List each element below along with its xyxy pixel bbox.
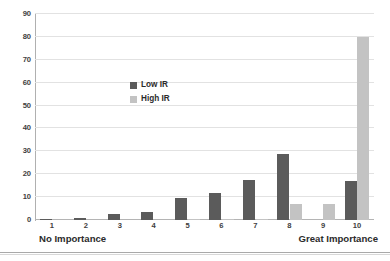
legend-swatch-low-ir bbox=[130, 82, 137, 89]
y-tick-label-0: 0 bbox=[5, 216, 31, 224]
legend-swatch-high-ir bbox=[130, 96, 137, 103]
bar-group-4 bbox=[141, 14, 166, 220]
bar-group-8 bbox=[277, 14, 302, 220]
plot-area bbox=[35, 14, 374, 220]
bar-high-ir-6 bbox=[222, 219, 234, 220]
x-tick-label-9: 9 bbox=[311, 222, 335, 230]
footer-divider-secondary bbox=[0, 254, 390, 255]
legend-item-high-ir: High IR bbox=[130, 93, 200, 105]
bar-group-5 bbox=[175, 14, 200, 220]
bar-high-ir-10 bbox=[357, 37, 369, 220]
bar-high-ir-5 bbox=[188, 219, 200, 220]
legend-item-low-ir: Low IR bbox=[130, 79, 200, 91]
legend-label-low-ir: Low IR bbox=[141, 81, 168, 89]
bar-low-ir-8 bbox=[277, 154, 289, 220]
x-tick-label-10: 10 bbox=[345, 222, 369, 230]
annotation-great-importance: Great Importance bbox=[299, 234, 378, 244]
bar-group-1 bbox=[40, 14, 65, 220]
bar-group-7 bbox=[243, 14, 268, 220]
y-tick-label-50: 50 bbox=[5, 102, 31, 110]
chart-figure: 0102030405060708090 12345678910 No Impor… bbox=[0, 0, 390, 261]
chart-legend: Low IR High IR bbox=[130, 79, 200, 107]
x-tick-label-2: 2 bbox=[74, 222, 98, 230]
bar-low-ir-4 bbox=[141, 212, 153, 220]
bar-low-ir-6 bbox=[209, 193, 221, 220]
bar-low-ir-1 bbox=[40, 219, 52, 220]
bar-low-ir-2 bbox=[74, 218, 86, 220]
bar-high-ir-9 bbox=[323, 204, 335, 220]
bar-low-ir-7 bbox=[243, 180, 255, 220]
x-tick-label-7: 7 bbox=[243, 222, 267, 230]
x-tick-label-8: 8 bbox=[277, 222, 301, 230]
bar-low-ir-10 bbox=[345, 181, 357, 220]
bar-group-6 bbox=[209, 14, 234, 220]
axis-annotations: No Importance Great Importance bbox=[35, 234, 380, 250]
y-axis-labels: 0102030405060708090 bbox=[0, 0, 31, 261]
y-tick-label-60: 60 bbox=[5, 79, 31, 87]
footer-divider bbox=[0, 252, 390, 253]
bar-high-ir-7 bbox=[256, 219, 268, 220]
y-tick-label-80: 80 bbox=[5, 33, 31, 41]
y-tick-label-70: 70 bbox=[5, 56, 31, 64]
x-tick-label-4: 4 bbox=[142, 222, 166, 230]
bar-group-3 bbox=[108, 14, 133, 220]
y-tick-label-90: 90 bbox=[5, 10, 31, 18]
bar-group-2 bbox=[74, 14, 99, 220]
y-tick-label-10: 10 bbox=[5, 193, 31, 201]
bar-low-ir-3 bbox=[108, 214, 120, 220]
y-tick-label-20: 20 bbox=[5, 170, 31, 178]
legend-label-high-ir: High IR bbox=[141, 95, 170, 103]
bar-series-container bbox=[35, 14, 374, 220]
x-tick-label-3: 3 bbox=[108, 222, 132, 230]
bar-group-9 bbox=[311, 14, 336, 220]
x-tick-label-5: 5 bbox=[176, 222, 200, 230]
x-tick-label-6: 6 bbox=[209, 222, 233, 230]
bar-group-10 bbox=[345, 14, 370, 220]
y-tick-label-30: 30 bbox=[5, 147, 31, 155]
bar-low-ir-5 bbox=[175, 198, 187, 220]
annotation-no-importance: No Importance bbox=[39, 234, 106, 244]
y-tick-label-40: 40 bbox=[5, 124, 31, 132]
bar-high-ir-8 bbox=[290, 204, 302, 220]
x-tick-label-1: 1 bbox=[40, 222, 64, 230]
